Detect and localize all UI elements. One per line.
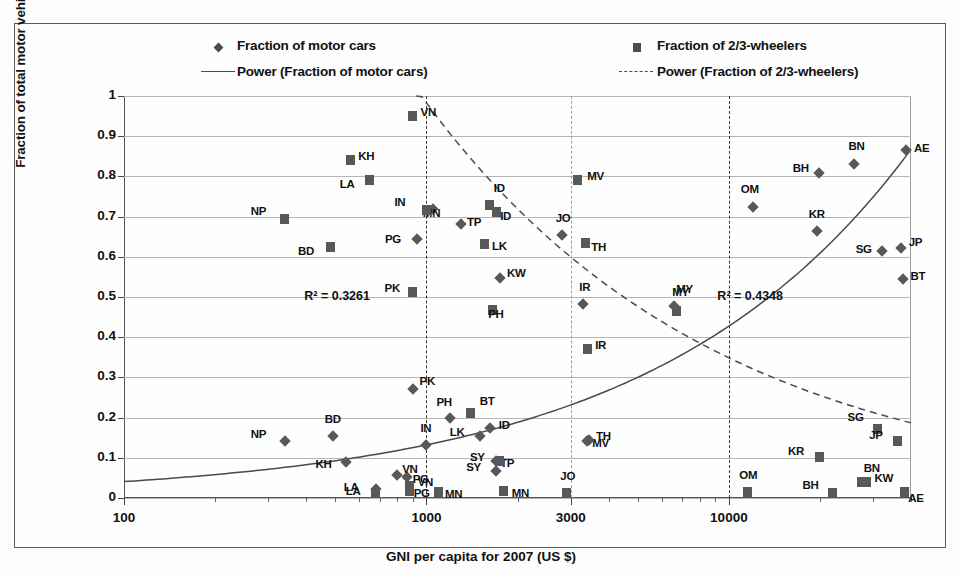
data-point-MN xyxy=(499,486,508,496)
data-point-label: SG xyxy=(856,243,872,255)
legend-label-power-wheelers: Power (Fraction of 2/3-wheelers) xyxy=(657,64,858,79)
r-squared-annotation-1: R² = 0.3261 xyxy=(304,289,370,303)
legend-dashed-line-icon xyxy=(619,71,653,72)
data-point-VN xyxy=(405,481,414,491)
x-minor-tick xyxy=(638,498,639,502)
y-tick-label: 0.5 xyxy=(72,288,116,303)
data-point-label: NP xyxy=(251,428,266,440)
x-tick xyxy=(124,498,125,505)
trendline-wheelers xyxy=(416,96,911,423)
data-point-KW xyxy=(862,477,871,487)
data-point-label: KW xyxy=(507,267,526,279)
data-point-JO xyxy=(562,488,571,498)
data-point-JP xyxy=(893,436,902,446)
data-point-VN xyxy=(408,111,417,121)
data-point-PK xyxy=(408,287,417,297)
data-point-label: PK xyxy=(385,282,400,294)
data-point-label: MY xyxy=(672,286,689,298)
chart-page: Fraction of motor cars Fraction of 2/3-w… xyxy=(0,0,960,575)
data-point-label: LA xyxy=(340,178,355,190)
y-tick-label: 0.8 xyxy=(72,167,116,182)
data-point-MN xyxy=(434,487,443,497)
data-point-IR xyxy=(583,344,592,354)
data-point-BH xyxy=(828,488,837,498)
data-point-label: JP xyxy=(869,429,882,441)
y-tick-label: 0 xyxy=(72,489,116,504)
y-tick-label: 0.2 xyxy=(72,409,116,424)
data-point-label: BN xyxy=(848,140,864,152)
trendlines xyxy=(124,96,911,498)
data-point-label: PH xyxy=(488,308,503,320)
data-point-label: ID xyxy=(500,210,511,222)
data-point-BT xyxy=(466,408,475,418)
x-minor-tick xyxy=(609,498,610,502)
data-point-label: OM xyxy=(739,469,757,481)
x-tick xyxy=(729,498,730,505)
y-tick-label: 0.4 xyxy=(72,328,116,343)
data-point-MV xyxy=(573,175,582,185)
data-point-label: BD xyxy=(298,245,314,257)
data-point-label: TH xyxy=(591,241,606,253)
legend-label-power-motor-cars: Power (Fraction of motor cars) xyxy=(237,64,428,79)
data-point-label: SG xyxy=(848,411,864,423)
data-point-label: JO xyxy=(556,212,571,224)
x-tick xyxy=(571,498,572,505)
data-point-label: PG xyxy=(414,487,430,499)
data-point-label: VN xyxy=(421,106,436,118)
data-point-label: PK xyxy=(420,375,435,387)
data-point-label: AE xyxy=(908,492,923,504)
x-minor-tick xyxy=(700,498,701,502)
data-point-KH xyxy=(346,155,355,165)
data-point-label: TH xyxy=(596,430,611,442)
data-point-label: IR xyxy=(579,281,590,293)
chart-legend: Fraction of motor cars Fraction of 2/3-w… xyxy=(15,24,947,82)
data-point-label: VN xyxy=(418,476,433,488)
data-point-SY xyxy=(495,456,504,466)
data-point-label: KH xyxy=(316,458,332,470)
data-point-KR xyxy=(815,452,824,462)
legend-label-motor-cars: Fraction of motor cars xyxy=(237,38,376,53)
data-point-label: PG xyxy=(385,233,401,245)
data-point-label: LK xyxy=(450,426,465,438)
x-tick-label: 10000 xyxy=(689,510,769,525)
legend-diamond-marker-icon xyxy=(214,43,224,53)
x-axis-title: GNI per capita for 2007 (US $) xyxy=(15,549,947,564)
data-point-label: MN xyxy=(512,487,529,499)
data-point-label: LK xyxy=(492,240,507,252)
x-minor-tick xyxy=(662,498,663,502)
y-tick-label: 1 xyxy=(72,87,116,102)
x-minor-tick xyxy=(359,498,360,502)
data-point-label: IN xyxy=(420,422,431,434)
data-point-label: KW xyxy=(874,472,893,484)
legend-solid-line-icon xyxy=(201,71,235,72)
data-point-label: PH xyxy=(436,396,451,408)
data-point-BD xyxy=(326,242,335,252)
data-point-label: LA xyxy=(344,481,359,493)
data-point-IN xyxy=(422,205,431,215)
x-minor-tick xyxy=(873,498,874,502)
data-point-MY xyxy=(672,306,681,316)
data-point-label: BH xyxy=(802,479,818,491)
y-tick-label: 0.9 xyxy=(72,127,116,142)
data-point-OM xyxy=(743,487,752,497)
data-point-label: KR xyxy=(788,445,804,457)
data-point-label: BH xyxy=(793,162,809,174)
chart-frame: Fraction of motor cars Fraction of 2/3-w… xyxy=(14,23,946,548)
data-point-LK xyxy=(480,239,489,249)
data-point-label: KR xyxy=(809,208,825,220)
data-point-label: AE xyxy=(914,142,929,154)
x-minor-tick xyxy=(682,498,683,502)
x-minor-tick xyxy=(380,498,381,502)
x-tick-label: 3000 xyxy=(531,510,611,525)
data-point-NP xyxy=(280,214,289,224)
data-point-label: SY xyxy=(470,451,485,463)
x-tick xyxy=(426,498,427,505)
legend-label-wheelers: Fraction of 2/3-wheelers xyxy=(657,38,807,53)
x-minor-tick xyxy=(820,498,821,502)
data-point-label: MN xyxy=(445,488,462,500)
x-tick-label: 1000 xyxy=(386,510,466,525)
data-point-label: BT xyxy=(480,395,495,407)
data-point-label: TP xyxy=(467,216,481,228)
y-tick-label: 0.6 xyxy=(72,248,116,263)
plot-area: 00.10.20.30.40.50.60.70.80.91 1001000300… xyxy=(124,96,911,498)
